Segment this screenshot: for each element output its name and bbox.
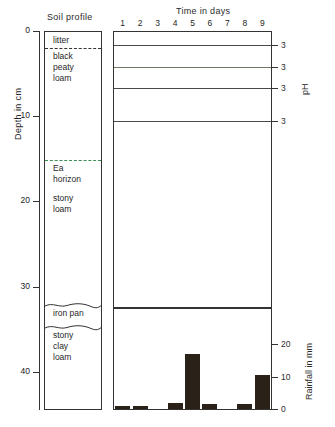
rainfall-tick-label: 20 bbox=[281, 339, 290, 349]
ph-tick bbox=[272, 67, 278, 68]
soil-horizon-label-stony-clay-loam: stonyclayloam bbox=[53, 330, 73, 363]
rainfall-bar bbox=[237, 404, 252, 409]
rainfall-tick-label: 0 bbox=[281, 404, 286, 414]
depth-tick bbox=[33, 116, 39, 117]
soil-horizon-label-stony-loam: stonyloam bbox=[53, 193, 73, 215]
ph-axis-title: pH bbox=[300, 83, 310, 95]
time-tick-label: 4 bbox=[173, 18, 178, 28]
ph-tick bbox=[272, 45, 278, 46]
time-tick-label: 5 bbox=[190, 18, 195, 28]
rainfall-bar bbox=[115, 406, 130, 409]
soil-profile-ph-rainfall-figure: Depth in cm 010203040 Soil profile litte… bbox=[0, 0, 335, 427]
ph-tick-label: 3 bbox=[281, 40, 286, 50]
time-tick-label: 1 bbox=[120, 18, 125, 28]
ph-tick bbox=[272, 121, 278, 122]
soil-horizon-label-black-peaty-loam: blackpeatyloam bbox=[53, 51, 74, 84]
depth-tick-label: 30 bbox=[8, 282, 30, 291]
soil-profile-title: Soil profile bbox=[47, 12, 93, 22]
ph-tick-label: 3 bbox=[281, 83, 286, 93]
rainfall-axis-title: Rainfall in mm bbox=[304, 343, 314, 400]
time-tick-label: 7 bbox=[225, 18, 230, 28]
ph-series-line-black-peaty-loam bbox=[114, 67, 271, 68]
depth-tick bbox=[33, 372, 39, 373]
rainfall-tick bbox=[272, 344, 278, 345]
ph-series-line-Ea-horizon bbox=[114, 88, 271, 89]
rainfall-bar bbox=[133, 406, 148, 409]
rainfall-tick bbox=[272, 377, 278, 378]
ph-tick-label: 3 bbox=[281, 116, 286, 126]
time-tick-label: 2 bbox=[138, 18, 143, 28]
rainfall-bar bbox=[185, 354, 200, 409]
time-tick-label: 6 bbox=[208, 18, 213, 28]
rainfall-bar bbox=[202, 404, 217, 409]
soil-horizon-label-litter: litter bbox=[53, 35, 69, 46]
ph-series-line-stony-loam bbox=[114, 121, 271, 122]
ph-tick-label: 3 bbox=[281, 62, 286, 72]
ph-chart-panel bbox=[113, 31, 272, 308]
time-tick-label: 9 bbox=[260, 18, 265, 28]
depth-tick bbox=[33, 31, 39, 32]
depth-tick-label: 40 bbox=[8, 367, 30, 376]
rainfall-tick bbox=[272, 409, 278, 410]
depth-tick-label: 0 bbox=[8, 26, 30, 35]
rainfall-bar bbox=[255, 375, 270, 409]
depth-axis-line bbox=[39, 31, 40, 410]
time-tick-label: 3 bbox=[155, 18, 160, 28]
soil-profile-column: litterblackpeatyloamEahorizonstonyloamir… bbox=[44, 31, 102, 410]
depth-tick bbox=[33, 287, 39, 288]
rainfall-tick-label: 10 bbox=[281, 372, 290, 382]
depth-tick-label: 20 bbox=[8, 196, 30, 205]
ph-tick bbox=[272, 88, 278, 89]
soil-horizon-label-ea-horizon: Eahorizon bbox=[53, 163, 81, 185]
depth-tick bbox=[33, 201, 39, 202]
rainfall-bar bbox=[168, 403, 183, 410]
ph-series-line-litter bbox=[114, 45, 271, 46]
time-tick-label: 8 bbox=[242, 18, 247, 28]
soil-boundary-black-peaty-loam bbox=[45, 160, 101, 161]
time-axis-title: Time in days bbox=[176, 6, 230, 16]
depth-tick-label: 10 bbox=[8, 111, 30, 120]
soil-horizon-label-iron-pan: iron pan bbox=[53, 308, 84, 319]
soil-boundary-litter bbox=[45, 48, 101, 49]
